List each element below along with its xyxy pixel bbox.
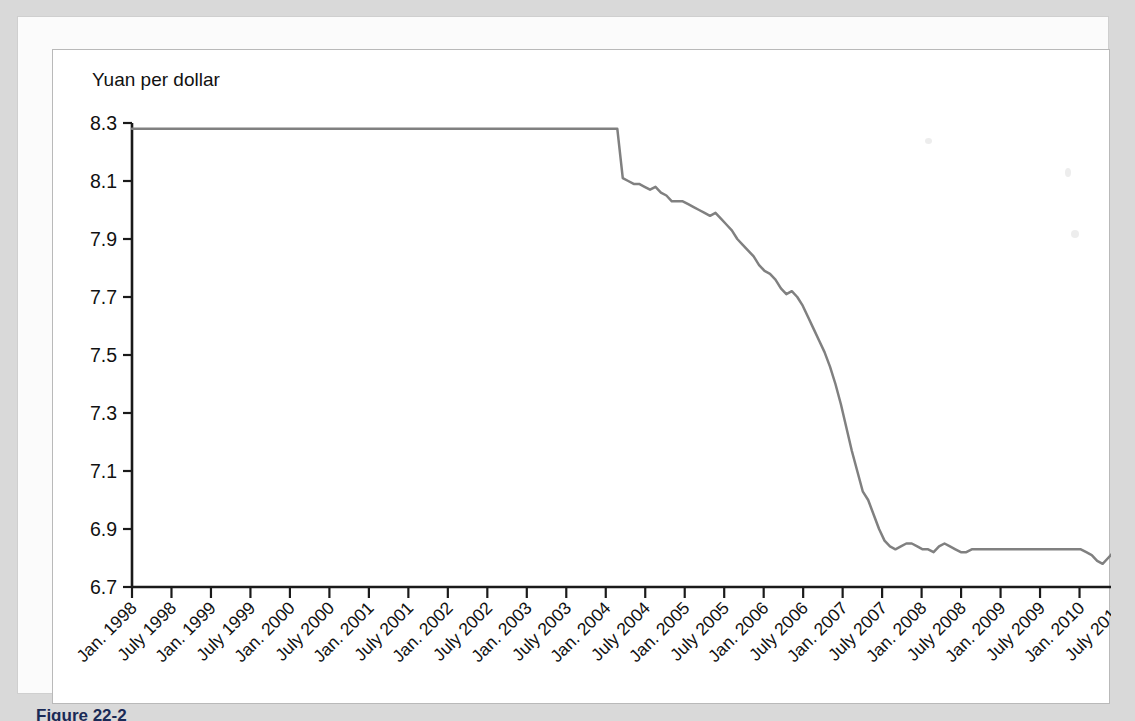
y-axis-tick-label: 6.7: [90, 576, 117, 598]
y-axis-tick-marks: [123, 123, 132, 587]
y-axis-tick-labels: 8.38.17.97.77.57.37.16.96.7: [90, 112, 117, 598]
y-axis-title: Yuan per dollar: [92, 69, 220, 90]
y-axis-tick-label: 7.3: [90, 402, 117, 424]
y-axis-tick-label: 7.9: [90, 228, 117, 250]
page-background: Yuan per dollar 8.38.17.97.77.57.37.16.9…: [0, 0, 1135, 721]
exchange-rate-line-chart: Yuan per dollar 8.38.17.97.77.57.37.16.9…: [53, 50, 1111, 705]
y-axis-tick-label: 7.1: [90, 460, 117, 482]
y-axis-tick-label: 8.3: [90, 112, 117, 134]
y-axis-tick-label: 7.5: [90, 344, 117, 366]
yuan-per-dollar-line: [132, 129, 1111, 564]
x-axis-tick-marks: [132, 587, 1111, 598]
chart-plot-panel: Yuan per dollar 8.38.17.97.77.57.37.16.9…: [52, 49, 1110, 704]
figure-card: Yuan per dollar 8.38.17.97.77.57.37.16.9…: [18, 17, 1108, 693]
x-axis-tick-labels: Jan. 1998July 1998Jan. 1999July 1999Jan.…: [72, 598, 1111, 667]
figure-caption: Figure 22-2: [36, 706, 127, 721]
y-axis-tick-label: 7.7: [90, 286, 117, 308]
y-axis-tick-label: 8.1: [90, 170, 117, 192]
y-axis-tick-label: 6.9: [90, 518, 117, 540]
